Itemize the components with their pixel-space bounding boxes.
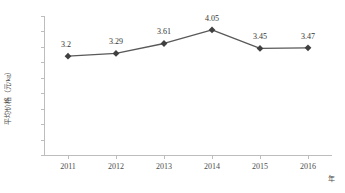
data-point-label: 3.45	[253, 32, 267, 41]
data-point-label: 3.29	[109, 37, 123, 46]
data-point-label: 3.47	[301, 32, 315, 41]
x-axis-tick	[68, 156, 69, 159]
data-point-marker	[113, 50, 120, 57]
x-axis-tick	[164, 156, 165, 159]
data-point-marker	[257, 45, 264, 52]
data-point-marker	[65, 53, 72, 60]
series-line	[68, 30, 308, 56]
x-axis-tick	[260, 156, 261, 159]
plot-area: 00.511.522.533.544.5 2011201220132014201…	[44, 16, 332, 156]
x-axis-title: 年	[328, 173, 335, 183]
x-axis-tick	[116, 156, 117, 159]
x-axis-tick	[212, 156, 213, 159]
series-line-group	[44, 16, 332, 156]
data-point-marker	[161, 40, 168, 47]
data-point-label: 3.2	[61, 40, 71, 49]
data-point-label: 3.61	[157, 27, 171, 36]
chart-figure: 平均价格（元/kg） 00.511.522.533.544.5 20112012…	[0, 0, 345, 193]
y-axis-title: 平均价格（元/kg）	[0, 0, 14, 193]
data-point-label: 4.05	[205, 14, 219, 23]
data-point-marker	[305, 44, 312, 51]
x-axis-tick-label: 2016	[278, 162, 338, 171]
x-axis-tick	[308, 156, 309, 159]
data-point-marker	[209, 27, 216, 34]
